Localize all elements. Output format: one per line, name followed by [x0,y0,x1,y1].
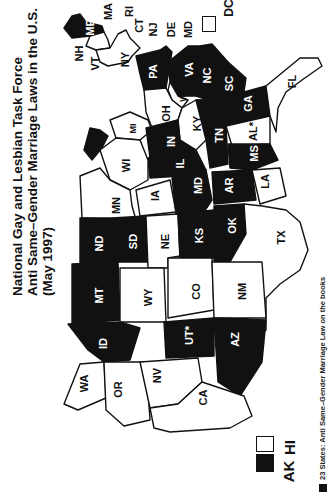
label-nc: NC [202,68,213,84]
label-nh: NH [74,46,85,62]
legend: 23 States: Anti Same–Gender Marriage Law… [318,277,327,492]
label-wi: WI [121,159,132,172]
legend-swatch [319,484,327,492]
label-ky: KY [192,116,203,131]
inset-hi-swatch [256,436,274,452]
label-mn: MN [111,197,122,214]
label-wy: WY [143,289,154,307]
label-in: IN [166,136,177,147]
label-sc: SC [224,76,235,91]
label-ks: KS [194,228,205,243]
state-fl [266,58,322,132]
state-az [214,318,266,396]
label-nj: NJ [148,22,159,36]
label-mt: MT [94,288,105,304]
inset-dc-label: DC [223,0,235,17]
label-wv: WV [179,87,188,102]
title-line-3: (May 1997) [40,8,55,296]
label-id: ID [98,338,109,349]
label-nv: NV [152,368,163,383]
label-ok: OK [227,217,238,234]
map-title: National Gay and Lesbian Task Force Anti… [10,8,55,296]
label-fl: FL [287,75,298,88]
label-oh: OH [161,105,172,122]
inset-ak-swatch [256,454,274,472]
label-ca: CA [198,390,209,406]
label-al: AL* [248,122,259,141]
label-ut: UT* [184,326,195,345]
label-wa: WA [79,375,90,393]
label-vt: VT [90,56,101,70]
label-ia: IA [150,190,161,201]
label-de: DE [166,22,177,37]
label-ny: NY [120,52,131,67]
label-ri: RI [124,6,135,17]
label-la: LA [260,174,271,189]
label-co: CO [191,283,202,300]
inset-dc-swatch [202,16,216,32]
legend-label: 23 States: Anti Same–Gender Marriage Law… [318,277,327,480]
label-tn: TN [214,128,225,143]
label-il: IL [175,159,186,169]
label-me: ME [85,19,96,36]
label-or: OR [113,381,124,398]
label-ma: MA [103,3,114,20]
label-az: AZ [230,332,241,347]
label-sd: SD [128,234,139,249]
label-mi: MI [129,124,138,134]
label-pa: PA [148,64,159,78]
inset-ak-label: AK [281,461,296,483]
label-mo: MD [193,177,204,194]
label-tx: TX [276,230,287,244]
label-ar: AR [224,178,235,194]
inset-hi-label: HI [282,440,297,455]
label-nd: ND [94,236,105,252]
title-line-1: National Gay and Lesbian Task Force [10,8,25,296]
label-ne: NE [160,234,171,249]
label-ms: MS [249,145,260,162]
label-ga: GA [243,95,254,112]
label-nm: NM [237,283,248,300]
title-line-2: Anti Same–Gender Marriage Laws in the U.… [25,8,40,296]
label-ct: CT [134,18,145,33]
label-md-east: MD [183,21,194,38]
label-va: VA [184,62,195,76]
